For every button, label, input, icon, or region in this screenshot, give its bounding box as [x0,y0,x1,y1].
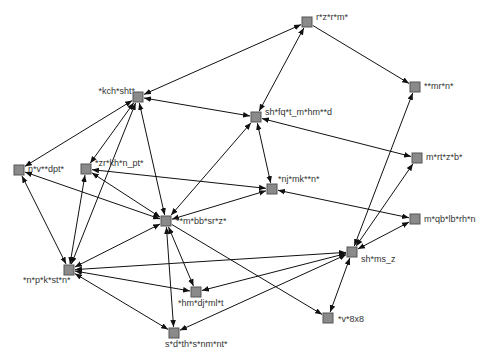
edge-n11-n12 [75,252,346,269]
node-square-icon[interactable] [169,328,179,338]
node-label: *hm*dj*ml*t [178,298,224,308]
edge-n3-n7 [90,103,134,163]
node-label: sh*ms_z [361,254,396,264]
graph-node[interactable]: *nj*mk**n* [267,174,320,194]
edge-n11-n15 [180,255,346,331]
node-square-icon[interactable] [191,287,201,297]
edge-n7-n8 [92,170,266,189]
node-square-icon[interactable] [14,165,24,175]
node-label: *zr*kh*n_pt* [95,158,144,168]
edge-n4-n10 [171,123,251,215]
edge-n11-n14 [330,258,350,312]
node-label: m*rt*z*b* [426,152,463,162]
node-label: *v*8x8 [338,314,364,324]
graph-node[interactable]: *n*p*k*st*n* [23,265,74,285]
network-graph: r*z*r*m***mr*n**kch*sht*sh*fq*t_m*hm**dm… [0,0,490,361]
node-square-icon[interactable] [64,265,74,275]
edge-n6-n12 [22,176,66,264]
edge-n4-n5 [262,119,411,157]
node-square-icon[interactable] [302,17,312,27]
graph-node[interactable]: r*z*r*m* [302,12,348,27]
edge-n1-n2 [313,26,409,84]
graph-node[interactable]: s*d*th*s*nm*nt* [165,328,228,349]
edge-n3-n12 [71,103,135,264]
edge-n11-n5 [356,164,413,246]
node-label: *nj*mk**n* [278,174,320,184]
graph-node[interactable]: sh*ms_z [347,247,396,264]
graph-node[interactable]: **mr*n* [410,81,454,92]
edge-n12-n13 [75,271,190,291]
graph-node[interactable]: m*rt*z*b* [412,152,463,163]
edge-n12-n15 [75,274,168,330]
edge-n11-n2 [354,93,412,246]
node-label: **m*bb*sr*z* [176,216,227,226]
node-label: *kch*sht* [98,86,135,96]
edge-layer [22,25,413,331]
edge-n3-n1 [144,25,301,95]
edge-n4-n8 [257,123,270,183]
node-square-icon[interactable] [161,216,171,226]
graph-node[interactable]: m*qb*lb*rh*n [410,214,476,224]
node-label: sh*fq*t_m*hm**d [265,107,332,117]
node-square-icon[interactable] [267,184,277,194]
edge-n11-n13 [202,254,346,291]
edge-n7-n10 [92,173,160,217]
graph-node[interactable]: *kch*sht* [98,86,143,102]
node-square-icon[interactable] [410,82,420,92]
node-square-icon[interactable] [251,112,261,122]
node-label: r*z*r*m* [316,12,348,22]
edge-n8-n10 [172,191,266,219]
graph-node[interactable]: **m*bb*sr*z* [161,216,227,226]
node-label: s*d*th*s*nm*nt* [165,339,228,349]
edge-n10-n15 [166,227,173,327]
node-label: **mr*n* [424,81,454,91]
node-square-icon[interactable] [323,313,333,323]
node-square-icon[interactable] [412,153,422,163]
node-label: n*v**dpt* [28,164,65,174]
node-square-icon[interactable] [347,247,357,257]
node-square-icon[interactable] [410,214,420,224]
edge-n8-n9 [278,190,409,217]
node-label: *n*p*k*st*n* [23,275,71,285]
edge-n10-n12 [75,224,160,267]
edge-n11-n9 [358,222,409,249]
edge-n3-n4 [144,98,250,116]
graph-node[interactable]: n*v**dpt* [14,164,65,175]
node-label: m*qb*lb*rh*n [424,214,476,224]
node-square-icon[interactable] [81,164,91,174]
node-layer: r*z*r*m***mr*n**kch*sht*sh*fq*t_m*hm**dm… [14,12,476,349]
graph-node[interactable]: *v*8x8 [323,313,364,324]
edge-n3-n6 [25,101,132,167]
graph-node[interactable]: sh*fq*t_m*hm**d [251,107,332,122]
